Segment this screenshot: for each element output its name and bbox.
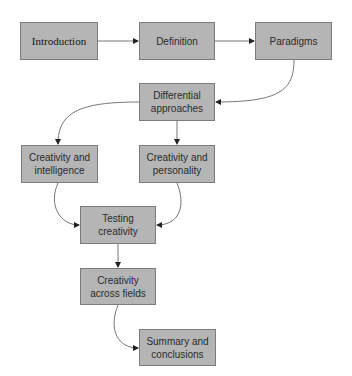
- edge-intelligence-testing: [54, 183, 79, 225]
- node-definition: Definition: [139, 22, 215, 60]
- node-label: Creativity and intelligence: [29, 151, 90, 177]
- node-introduction: Introduction: [20, 22, 98, 60]
- node-label: Testing creativity: [98, 212, 137, 238]
- node-testing-creativity: Testing creativity: [80, 206, 156, 244]
- edge-differential-intelligence: [58, 102, 139, 144]
- edge-paradigms-differential: [216, 60, 294, 102]
- node-label: Creativity and personality: [146, 151, 207, 177]
- node-creativity-intelligence: Creativity and intelligence: [21, 145, 98, 183]
- node-paradigms: Paradigms: [255, 22, 332, 60]
- node-differential-approaches: Differential approaches: [139, 83, 215, 121]
- node-creativity-personality: Creativity and personality: [139, 145, 215, 183]
- edge-fields-summary: [114, 305, 138, 348]
- node-label: Differential approaches: [151, 89, 203, 115]
- node-label: Introduction: [32, 35, 86, 48]
- node-summary-conclusions: Summary and conclusions: [139, 329, 216, 366]
- node-label: Definition: [156, 35, 198, 48]
- node-label: Paradigms: [270, 35, 318, 48]
- node-creativity-across-fields: Creativity across fields: [80, 268, 156, 305]
- node-label: Creativity across fields: [90, 274, 146, 300]
- edge-personality-testing: [157, 183, 181, 225]
- node-label: Summary and conclusions: [146, 335, 208, 361]
